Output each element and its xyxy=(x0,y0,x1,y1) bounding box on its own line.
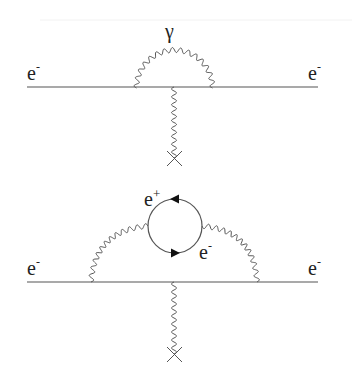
feynman-diagrams: e- e- γ e- e- e+ e- xyxy=(0,0,352,385)
label-outgoing-bottom: e- xyxy=(308,255,321,279)
label-incoming-bottom: e- xyxy=(27,255,40,279)
label-incoming-top: e- xyxy=(27,60,40,84)
diagram-bottom: e- e- e+ e- xyxy=(27,186,321,362)
label-loop-electron: e- xyxy=(199,239,212,263)
external-field-cross-bottom xyxy=(167,347,182,362)
photon-vertical-bottom xyxy=(172,282,177,354)
label-positron: e+ xyxy=(144,186,160,210)
photon-left-bottom xyxy=(89,224,148,282)
fermion-loop xyxy=(148,199,202,253)
label-outgoing-top: e- xyxy=(308,60,321,84)
diagram-top: e- e- γ xyxy=(27,20,321,166)
label-photon-gamma: γ xyxy=(164,20,174,43)
photon-arc-top xyxy=(134,48,214,88)
photon-right-bottom xyxy=(202,224,259,282)
arrow-left-icon xyxy=(170,195,179,204)
arrow-right-icon xyxy=(171,249,180,258)
external-field-cross-top xyxy=(167,151,182,166)
photon-vertical-top xyxy=(172,87,177,158)
